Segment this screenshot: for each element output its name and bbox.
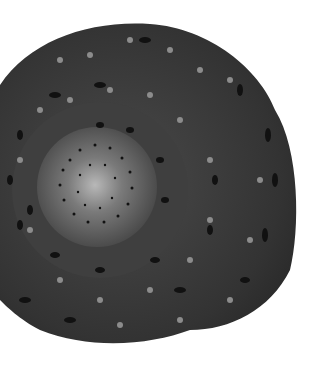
shell [0, 24, 296, 344]
shell-photo [0, 0, 314, 367]
